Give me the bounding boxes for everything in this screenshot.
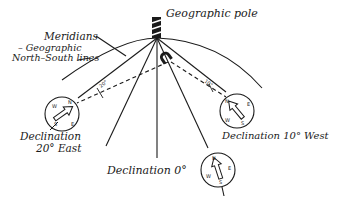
angle-marker-east bbox=[97, 88, 103, 98]
svg-text:W: W bbox=[52, 103, 57, 109]
meridians-sub-label-2: North–South lines bbox=[12, 53, 99, 63]
compass-east-icon: W N E S bbox=[45, 97, 79, 131]
pole-marker-icon bbox=[152, 17, 161, 38]
latitude-arc bbox=[62, 38, 262, 88]
compass-zero-icon: N E S W bbox=[201, 153, 235, 187]
svg-text:W: W bbox=[206, 173, 211, 179]
angle-label-east: 20° bbox=[98, 78, 109, 89]
svg-text:E: E bbox=[247, 101, 250, 107]
svg-text:S: S bbox=[241, 120, 244, 126]
declination-east-label-2: 20° East bbox=[36, 143, 81, 154]
svg-text:N: N bbox=[68, 99, 72, 105]
svg-text:N: N bbox=[212, 155, 216, 161]
svg-text:S: S bbox=[219, 179, 222, 185]
meridians-label: Meridians bbox=[44, 31, 98, 42]
svg-text:E: E bbox=[228, 165, 231, 171]
declination-east-label-1: Declination bbox=[20, 131, 81, 142]
geographic-pole-label: Geographic pole bbox=[166, 8, 258, 19]
magnetic-line-west bbox=[171, 62, 226, 97]
compass-west-icon: N E S W bbox=[220, 94, 254, 128]
magnetic-line-east bbox=[77, 62, 168, 103]
svg-text:E: E bbox=[71, 121, 74, 127]
declination-zero-label: Declination 0° bbox=[107, 165, 187, 176]
meridian-far-right bbox=[157, 38, 226, 92]
compass-zero-tail bbox=[222, 187, 224, 196]
magnetic-declination-diagram: 20° 10° W N E S N E S W bbox=[0, 0, 337, 205]
declination-west-label: Declination 10° West bbox=[222, 131, 329, 141]
angle-label-west: 10° bbox=[203, 78, 214, 88]
svg-text:N: N bbox=[225, 98, 229, 104]
svg-text:W: W bbox=[225, 117, 230, 123]
meridian-left bbox=[106, 38, 157, 146]
